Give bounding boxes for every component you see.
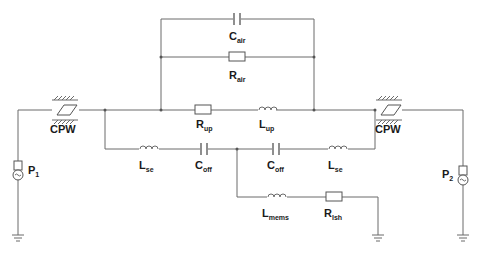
label-c-off-left: Coff [195,159,213,173]
inductor-l-mems [267,191,287,198]
junction [160,56,163,59]
port-2-symbol [458,166,468,185]
junction [236,148,239,151]
cpw-right-label: CPW [375,123,401,135]
resistor-r-up [195,105,211,114]
resistor-r-lsh [326,192,342,201]
label-l-mems: Lmems [262,207,289,221]
cpw-left-symbol [52,96,78,124]
resistor-r-air [229,52,245,61]
label-r-air: Rair [229,69,246,83]
inductor-l-se-left [139,143,159,150]
ground-icon [372,235,384,241]
ground-icon [457,235,469,241]
label-r-up: Rup [196,118,213,133]
label-port-2: P2 [442,168,453,182]
capacitor-c-air [233,13,241,25]
wire-shunt-branch [237,149,378,235]
wire-upper-loop [161,19,314,110]
junction [104,109,107,112]
circuit-svg: CPW CPW Cair Rair Rup Lup Lse Coff Coff [0,0,481,253]
junction [160,109,163,112]
cpw-left-label: CPW [50,123,76,135]
label-c-air: Cair [229,30,246,44]
label-port-1: P1 [28,164,39,178]
inductor-l-up [258,104,277,111]
port-1-symbol [13,161,23,180]
junction [313,56,316,59]
wire-right-top [402,110,463,235]
label-l-se-left: Lse [139,159,154,173]
label-l-up: Lup [259,118,274,133]
ground-icon [12,235,24,241]
cpw-right-symbol [376,96,402,124]
capacitor-c-off-left [200,143,208,155]
junction [374,109,377,112]
circuit-diagram: CPW CPW Cair Rair Rup Lup Lse Coff Coff [0,0,481,253]
inductor-l-se-right [328,143,348,150]
label-c-off-right: Coff [267,159,285,173]
junctions [104,56,377,151]
label-l-se-right: Lse [328,159,343,173]
label-r-lsh: Rlsh [324,207,342,221]
junction [313,109,316,112]
capacitor-c-off-right [272,143,280,155]
